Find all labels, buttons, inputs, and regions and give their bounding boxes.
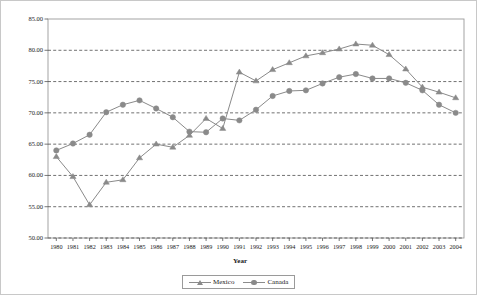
line-chart-plot: [1, 1, 478, 296]
triangle-marker-icon: [197, 280, 203, 285]
y-axis-tick-label: 65.00: [7, 140, 43, 147]
y-axis-tick-label: 55.00: [7, 203, 43, 210]
chart-legend: Mexico Canada: [182, 275, 295, 289]
x-axis-title: Year: [1, 257, 478, 265]
y-axis-tick-label: 70.00: [7, 109, 43, 116]
chart-frame: Year Mexico Canada 85.0080.0075.0070.006…: [0, 0, 477, 295]
legend-item-canada: Canada: [243, 278, 288, 286]
x-axis-tick-label: 2004: [446, 243, 466, 250]
legend-label-mexico: Mexico: [213, 278, 234, 286]
legend-label-canada: Canada: [267, 278, 288, 286]
circle-marker-icon: [251, 280, 256, 285]
legend-line-canada: [243, 279, 265, 286]
legend-item-mexico: Mexico: [189, 278, 234, 286]
y-axis-tick-label: 80.00: [7, 46, 43, 53]
y-axis-tick-label: 75.00: [7, 78, 43, 85]
y-axis-tick-label: 50.00: [7, 234, 43, 241]
legend-line-mexico: [189, 279, 211, 286]
y-axis-tick-label: 60.00: [7, 171, 43, 178]
y-axis-tick-label: 85.00: [7, 15, 43, 22]
